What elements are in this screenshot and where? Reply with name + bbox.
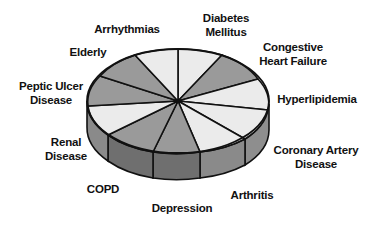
label-hyperlipidemia: Hyperlipidemia: [277, 92, 357, 106]
label-congestive-heart-failure: CongestiveHeart Failure: [259, 40, 327, 68]
label-arthritis: Arthritis: [231, 188, 274, 202]
pie-top-face: [87, 49, 269, 154]
label-depression: Depression: [152, 201, 213, 215]
label-diabetes-mellitus: DiabetesMellitus: [203, 11, 249, 39]
pie-chart: [0, 0, 375, 227]
label-elderly: Elderly: [70, 45, 107, 59]
label-renal-disease: RenalDisease: [45, 135, 87, 163]
label-peptic-ulcer-disease: Peptic UlcerDisease: [19, 79, 83, 107]
label-arrhythmias: Arrhythmias: [94, 22, 160, 36]
label-coronary-artery-disease: Coronary ArteryDisease: [274, 143, 359, 171]
label-copd: COPD: [87, 182, 119, 196]
